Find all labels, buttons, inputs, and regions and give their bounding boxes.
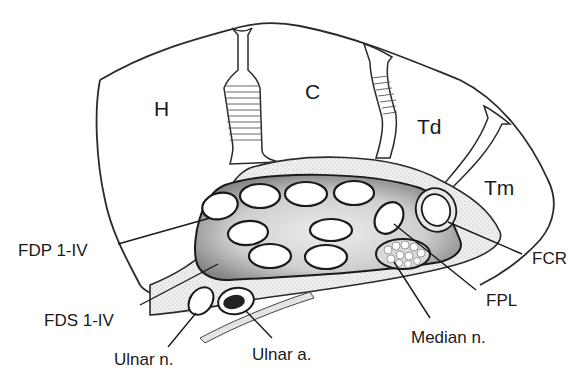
- fds-tendon-2: [310, 219, 352, 241]
- label-median-nerve: Median n.: [411, 328, 486, 347]
- label-fds: FDS 1-IV: [44, 311, 115, 330]
- fdp-tendon-2: [240, 184, 280, 208]
- label-ulnar-artery: Ulnar a.: [252, 345, 312, 364]
- label-ulnar-nerve: Ulnar n.: [114, 350, 174, 369]
- label-fpl: FPL: [486, 291, 517, 310]
- label-fcr: FCR: [532, 249, 567, 268]
- fds-tendon-3: [249, 244, 291, 268]
- label-fdp: FDP 1-IV: [18, 241, 88, 260]
- label-capitate: C: [305, 80, 320, 103]
- label-trapezium: Tm: [484, 176, 514, 199]
- label-trapezoid: Td: [417, 115, 442, 138]
- septum-hamate-capitate: [224, 28, 280, 164]
- median-nerve: [376, 239, 430, 269]
- fds-tendon-4: [305, 245, 347, 269]
- label-hamate: H: [154, 97, 169, 120]
- leader-ulnar-nerve: [168, 313, 196, 347]
- septum-capitate-trapezoid: [364, 44, 397, 158]
- carpal-tunnel-diagram: H C Td Tm FDP 1-IV FDS 1-IV Ulnar n. Uln…: [0, 0, 587, 379]
- fdp-tendon-4: [334, 181, 374, 205]
- fdp-tendon-3: [285, 182, 327, 206]
